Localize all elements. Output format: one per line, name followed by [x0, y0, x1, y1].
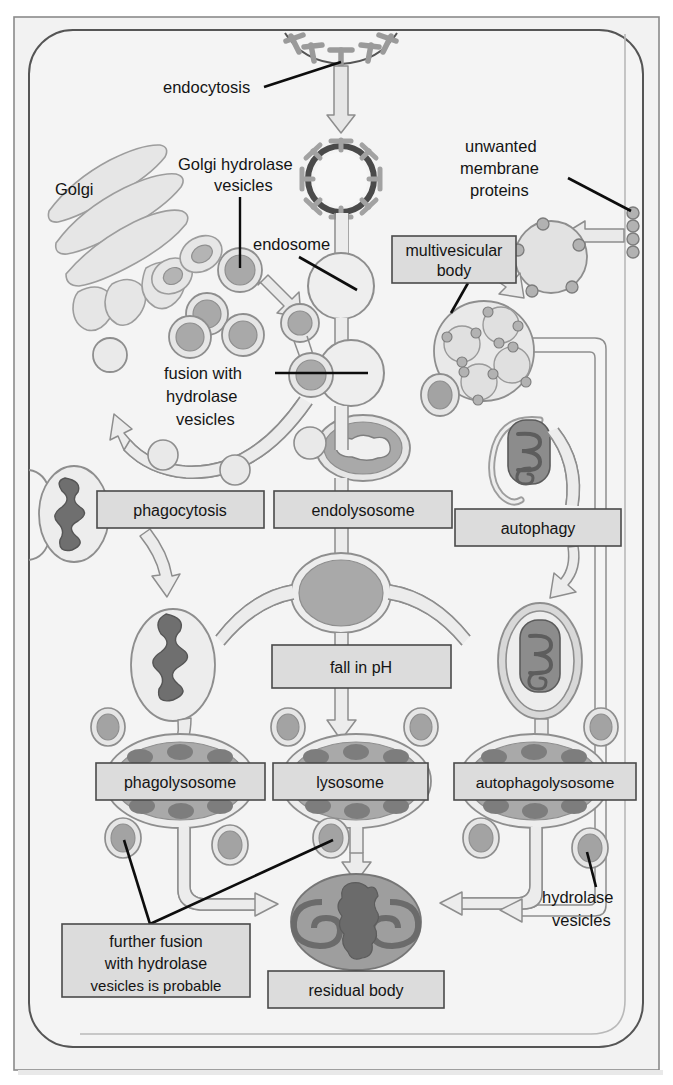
box-label-autophagolysosome: autophagolysosome — [476, 774, 615, 791]
box-fall-in-ph[interactable]: fall in pH — [272, 645, 451, 688]
box-label-autophagy: autophagy — [501, 520, 576, 537]
label-fusion-l2: hydrolase — [166, 387, 238, 405]
hydrolase-vesicle — [463, 818, 499, 858]
label-endosome: endosome — [253, 235, 330, 253]
label-hydrolase-vesicles-l2: vesicles — [552, 911, 611, 929]
frame-shadow — [18, 1070, 663, 1075]
box-phagolysosome[interactable]: phagolysosome — [96, 763, 265, 800]
hydrolase-vesicle — [105, 818, 141, 858]
box-autophagy[interactable]: autophagy — [455, 509, 621, 546]
box-label-phagocytosis: phagocytosis — [133, 502, 226, 519]
label-golgi-hydrolase-vesicles-l1: Golgi hydrolase — [178, 155, 293, 173]
diagram-canvas: endocytosis — [0, 0, 673, 1085]
transit-hydrolase-vesicle — [281, 304, 319, 342]
hydrolase-vesicle — [313, 818, 349, 858]
label-unwanted-l2: membrane — [460, 159, 539, 177]
box-further-fusion[interactable]: further fusion with hydrolase vesicles i… — [62, 924, 250, 997]
label-golgi-hydrolase-vesicles-l2: vesicles — [214, 176, 273, 194]
box-label-multivesicular-body-l2: body — [437, 262, 472, 279]
lysosome-pathway-figure: endocytosis — [0, 0, 673, 1085]
box-label-further-fusion-l2: with hydrolase — [104, 955, 207, 972]
box-endolysosome[interactable]: endolysosome — [274, 491, 452, 528]
box-lysosome[interactable]: lysosome — [273, 763, 428, 800]
box-label-lysosome: lysosome — [316, 774, 384, 791]
phagosome — [131, 609, 215, 721]
label-unwanted-l3: proteins — [470, 181, 529, 199]
hydrolase-vesicle — [169, 316, 211, 358]
endolysosome-stem — [335, 406, 348, 562]
label-golgi: Golgi — [55, 180, 94, 198]
box-label-endolysosome: endolysosome — [311, 502, 414, 519]
endosome — [308, 253, 374, 319]
box-autophagolysosome[interactable]: autophagolysosome — [454, 763, 636, 800]
free-hydrolase-vesicle-near-mvb — [421, 374, 459, 416]
label-fusion-l1: fusion with — [164, 364, 242, 382]
box-label-further-fusion-l1: further fusion — [109, 933, 202, 950]
box-label-fall-in-ph: fall in pH — [330, 659, 392, 676]
hydrolase-vesicle — [222, 314, 264, 356]
autophagosome — [498, 603, 582, 719]
hydrolase-vesicle — [404, 708, 438, 746]
central-endolysosome-body — [291, 553, 391, 633]
label-endocytosis: endocytosis — [163, 78, 250, 96]
box-label-residual-body: residual body — [308, 982, 403, 999]
coated-vesicle — [302, 140, 380, 218]
hydrolase-vesicle — [91, 708, 125, 746]
box-phagocytosis[interactable]: phagocytosis — [97, 491, 264, 528]
label-unwanted-l1: unwanted — [465, 137, 537, 155]
box-label-phagolysosome: phagolysosome — [124, 774, 236, 791]
box-label-multivesicular-body-l1: multivesicular — [406, 242, 504, 259]
label-fusion-l3: vesicles — [176, 410, 235, 428]
recycling-vesicle — [93, 338, 127, 372]
residual-body — [291, 874, 421, 970]
box-multivesicular-body[interactable]: multivesicular body — [392, 236, 516, 283]
label-hydrolase-vesicles-l1: hydrolase — [542, 888, 614, 906]
box-label-further-fusion-l3: vesicles is probable — [91, 977, 222, 994]
hydrolase-vesicle — [212, 825, 248, 865]
hydrolase-vesicle — [584, 708, 618, 746]
hydrolase-vesicle — [271, 708, 305, 746]
box-residual-body[interactable]: residual body — [268, 971, 444, 1008]
